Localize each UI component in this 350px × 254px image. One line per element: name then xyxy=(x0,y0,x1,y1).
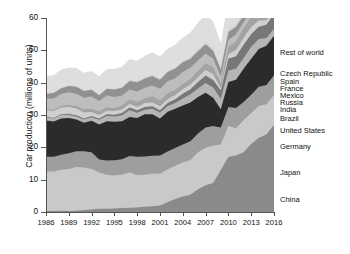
legend-label-brazil: Brazil xyxy=(280,115,299,123)
y-tick-mark xyxy=(41,115,46,116)
legend-label-india: India xyxy=(280,106,296,114)
y-tick-mark xyxy=(41,83,46,84)
x-tick-mark xyxy=(46,212,47,216)
chart-container: Car production (millions of units) 01020… xyxy=(0,0,350,254)
y-tick-label: 10 xyxy=(0,175,38,184)
stacked-area-series xyxy=(46,18,274,212)
legend: Rest of worldCzech RepublicSpainFranceMe… xyxy=(280,0,350,254)
y-axis-line xyxy=(46,18,47,212)
y-tick-mark xyxy=(41,50,46,51)
y-tick-label: 0 xyxy=(0,207,38,216)
y-tick-mark xyxy=(41,180,46,181)
x-tick-mark xyxy=(251,212,252,216)
y-tick-label: 50 xyxy=(0,45,38,54)
legend-label-germany: Germany xyxy=(280,143,311,151)
x-tick-mark xyxy=(183,212,184,216)
x-tick-mark xyxy=(137,212,138,216)
y-tick-label: 20 xyxy=(0,142,38,151)
y-tick-mark xyxy=(41,147,46,148)
x-tick-mark xyxy=(92,212,93,216)
plot-area xyxy=(46,18,274,212)
x-tick-mark xyxy=(114,212,115,216)
legend-label-rest-of-world: Rest of world xyxy=(280,49,324,57)
y-tick-mark xyxy=(41,18,46,19)
legend-label-united-states: United States xyxy=(280,127,325,135)
x-tick-mark xyxy=(274,212,275,216)
y-tick-label: 60 xyxy=(0,13,38,22)
x-tick-mark xyxy=(228,212,229,216)
x-tick-mark xyxy=(69,212,70,216)
x-tick-mark xyxy=(206,212,207,216)
y-tick-label: 30 xyxy=(0,110,38,119)
y-tick-label: 40 xyxy=(0,78,38,87)
legend-label-china: China xyxy=(280,196,300,204)
legend-label-japan: Japan xyxy=(280,169,300,177)
x-tick-mark xyxy=(160,212,161,216)
